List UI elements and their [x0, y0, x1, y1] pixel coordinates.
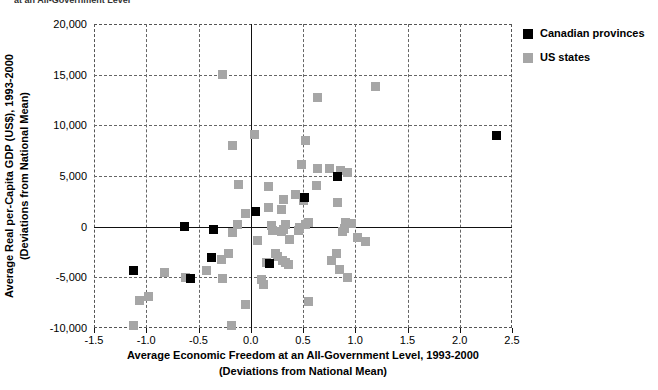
- x-tick-mark: [146, 328, 147, 333]
- data-point-us-states: [227, 321, 236, 330]
- data-point-us-states: [371, 82, 380, 91]
- data-point-canadian-provinces: [300, 193, 309, 202]
- data-point-canadian-provinces: [180, 222, 189, 231]
- gridline-horizontal: [94, 125, 512, 126]
- data-point-us-states: [338, 227, 347, 236]
- data-point-us-states: [313, 164, 322, 173]
- legend: Canadian provinces US states: [523, 28, 645, 76]
- data-point-us-states: [285, 235, 294, 244]
- data-point-us-states: [234, 180, 243, 189]
- x-tick-label: 0.0: [243, 335, 258, 346]
- x-tick-mark: [355, 328, 356, 333]
- x-tick-label: 1.0: [348, 335, 363, 346]
- data-point-us-states: [268, 226, 277, 235]
- y-tick-label: 15,000: [53, 69, 87, 80]
- data-point-us-states: [218, 274, 227, 283]
- data-point-us-states: [144, 292, 153, 301]
- data-point-us-states: [135, 296, 144, 305]
- data-point-us-states: [228, 228, 237, 237]
- x-tick-mark: [512, 328, 513, 333]
- data-point-us-states: [264, 203, 273, 212]
- y-tick-label: 10,000: [53, 120, 87, 131]
- data-point-canadian-provinces: [129, 266, 138, 275]
- x-tick-label: -0.5: [189, 335, 208, 346]
- gridline-horizontal: [94, 277, 512, 278]
- x-tick-label: -1.5: [85, 335, 104, 346]
- zero-line-vertical: [251, 24, 252, 328]
- y-axis-title-line1: Average Real per-Capita GDP (US$), 1993-…: [2, 24, 17, 328]
- plot-area: -1.5-1.0-0.50.00.51.01.52.02.5-10,000-5,…: [94, 24, 512, 328]
- data-point-canadian-provinces: [209, 225, 218, 234]
- data-point-canadian-provinces: [207, 253, 216, 262]
- y-tick-label: 0: [81, 221, 87, 232]
- x-tick-label: 0.5: [295, 335, 310, 346]
- x-tick-label: 2.5: [504, 335, 519, 346]
- data-point-us-states: [228, 141, 237, 150]
- scatter-plot-figure: at an All-Government Level Average Real …: [0, 0, 658, 390]
- data-point-us-states: [250, 130, 259, 139]
- data-point-us-states: [294, 226, 303, 235]
- x-axis-title: Average Economic Freedom at an All-Gover…: [94, 348, 512, 380]
- data-point-us-states: [253, 236, 262, 245]
- legend-label-us-states: US states: [540, 52, 590, 63]
- data-point-canadian-provinces: [492, 131, 501, 140]
- x-tick-mark: [460, 328, 461, 333]
- data-point-us-states: [217, 255, 226, 264]
- gridline-horizontal: [94, 176, 512, 177]
- x-tick-mark: [199, 328, 200, 333]
- data-point-us-states: [160, 268, 169, 277]
- x-tick-mark: [251, 328, 252, 333]
- data-point-us-states: [361, 237, 370, 246]
- y-tick-label: 20,000: [53, 19, 87, 30]
- legend-item-canadian-provinces: Canadian provinces: [523, 28, 645, 39]
- x-tick-label: 2.0: [452, 335, 467, 346]
- data-point-us-states: [327, 256, 336, 265]
- gridline-horizontal: [94, 75, 512, 76]
- clipped-heading-text: at an All-Government Level: [14, 0, 344, 5]
- data-point-us-states: [312, 181, 321, 190]
- data-point-canadian-provinces: [186, 274, 195, 283]
- x-axis-title-line2: (Deviations from National Mean): [94, 364, 512, 380]
- data-point-us-states: [277, 205, 286, 214]
- x-tick-label: 1.5: [400, 335, 415, 346]
- data-point-us-states: [343, 273, 352, 282]
- x-axis-title-line1: Average Economic Freedom at an All-Gover…: [94, 348, 512, 364]
- y-tick-label: -10,000: [50, 323, 87, 334]
- x-tick-mark: [408, 328, 409, 333]
- data-point-us-states: [241, 300, 250, 309]
- data-point-us-states: [264, 182, 273, 191]
- x-tick-label: -1.0: [137, 335, 156, 346]
- data-point-canadian-provinces: [333, 172, 342, 181]
- y-axis-title: Average Real per-Capita GDP (US$), 1993-…: [2, 24, 32, 328]
- data-point-us-states: [297, 160, 306, 169]
- x-tick-mark: [303, 328, 304, 333]
- data-point-us-states: [333, 198, 342, 207]
- legend-swatch-us-states: [523, 53, 533, 63]
- data-point-us-states: [313, 93, 322, 102]
- data-point-us-states: [304, 297, 313, 306]
- legend-item-us-states: US states: [523, 52, 645, 63]
- data-point-canadian-provinces: [265, 259, 274, 268]
- data-point-us-states: [284, 260, 293, 269]
- y-axis-title-line2: (Deviations from National Mean): [17, 24, 32, 328]
- legend-swatch-canadian-provinces: [523, 29, 533, 39]
- data-point-canadian-provinces: [251, 207, 260, 216]
- y-tick-label: -5,000: [56, 272, 87, 283]
- y-tick-label: 5,000: [59, 171, 87, 182]
- data-point-us-states: [202, 266, 211, 275]
- legend-label-canadian-provinces: Canadian provinces: [540, 28, 645, 39]
- data-point-us-states: [218, 70, 227, 79]
- x-tick-mark: [94, 328, 95, 333]
- data-point-us-states: [129, 321, 138, 330]
- data-point-us-states: [259, 280, 268, 289]
- data-point-us-states: [241, 209, 250, 218]
- data-point-us-states: [301, 136, 310, 145]
- data-point-us-states: [279, 195, 288, 204]
